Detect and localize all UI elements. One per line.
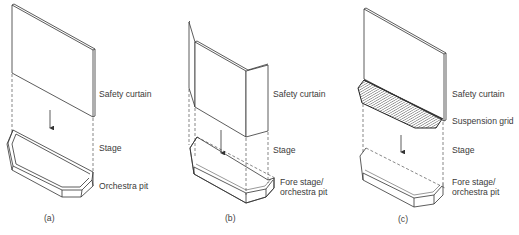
label-safety-curtain-c: Safety curtain	[452, 89, 505, 99]
label-safety-curtain-a: Safety curtain	[99, 89, 152, 99]
label-fore-stage-b-line2: orchestra pit	[280, 187, 327, 197]
label-stage-a: Stage	[99, 143, 121, 153]
label-stage-c: Stage	[452, 145, 474, 155]
label-suspension-grid-c: Suspension grid	[452, 116, 514, 126]
label-fore-stage-c-line2: orchestra pit	[452, 187, 499, 197]
label-orchestra-pit-a: Orchestra pit	[99, 181, 148, 191]
panel-a	[7, 4, 95, 197]
panel-b	[189, 21, 275, 203]
orchestra-pit-a	[7, 130, 93, 197]
label-fore-stage-b-line1: Fore stage/	[280, 177, 323, 187]
fore-stage-b	[190, 137, 274, 203]
panel-label-a: (a)	[44, 213, 55, 223]
stage-safety-curtain-diagram	[0, 0, 519, 235]
fore-stage-c	[360, 148, 443, 207]
label-stage-b: Stage	[273, 145, 295, 155]
label-fore-stage-c-line1: Fore stage/	[452, 177, 495, 187]
panel-label-c: (c)	[398, 214, 408, 224]
safety-curtain-b	[189, 21, 268, 137]
safety-curtain-a	[12, 4, 95, 117]
panel-c	[358, 8, 446, 207]
panel-label-b: (b)	[225, 213, 236, 223]
label-safety-curtain-b: Safety curtain	[273, 89, 326, 99]
